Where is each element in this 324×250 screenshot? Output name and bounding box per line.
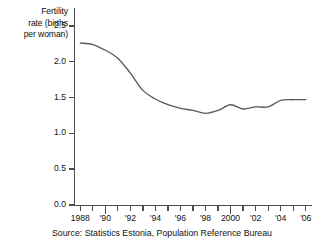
y-tick-label-0.5: 0.5 [12, 164, 66, 173]
x-tick-1992 [130, 206, 131, 211]
x-tick-1997 [192, 206, 193, 211]
fertility-rate-chart: Fertility rate (births per woman) 2.52.0… [0, 0, 324, 250]
x-tick-1991 [117, 206, 118, 211]
x-tick-2002 [255, 206, 256, 211]
y-axis-line [74, 8, 75, 206]
x-tick-label-1992: '92 [125, 213, 136, 223]
y-tick-label-2.0: 2.0 [12, 57, 66, 66]
y-tick-label-1.5: 1.5 [12, 93, 66, 102]
y-tick-0.0 [69, 204, 75, 205]
x-tick-label-2002: '02 [250, 213, 261, 223]
x-tick-2001 [242, 206, 243, 211]
y-tick-2.0 [69, 61, 75, 62]
x-tick-label-1996: '96 [175, 213, 186, 223]
y-tick-label-1.0: 1.0 [12, 128, 66, 137]
y-tick-0.5 [69, 168, 75, 169]
x-tick-label-2004: '04 [275, 213, 286, 223]
y-tick-1.5 [69, 97, 75, 98]
y-tick-label-0.0: 0.0 [12, 200, 66, 209]
x-tick-1995 [167, 206, 168, 211]
y-tick-2.5 [69, 25, 75, 26]
y-tick-1.0 [69, 133, 75, 134]
x-tick-label-1990: '90 [100, 213, 111, 223]
x-tick-2006 [305, 206, 306, 211]
y-axis-tick-labels: 2.52.01.51.00.50.0 [8, 0, 66, 250]
source-note: Source: Statistics Estonia, Population R… [0, 228, 324, 239]
x-tick-1998 [205, 206, 206, 211]
x-tick-2003 [268, 206, 269, 211]
x-tick-label-2000: 2000 [221, 213, 240, 223]
x-tick-label-1998: '98 [200, 213, 211, 223]
x-tick-label-2006: '06 [300, 213, 311, 223]
x-tick-2004 [280, 206, 281, 211]
x-tick-1999 [217, 206, 218, 211]
x-tick-1993 [142, 206, 143, 211]
x-tick-2005 [293, 206, 294, 211]
x-tick-label-1994: '94 [150, 213, 161, 223]
x-tick-label-1988: 1988 [71, 213, 90, 223]
fertility-rate-line [80, 43, 305, 113]
x-tick-1994 [155, 206, 156, 211]
y-tick-label-2.5: 2.5 [12, 21, 66, 30]
x-tick-1989 [92, 206, 93, 211]
x-tick-1996 [180, 206, 181, 211]
x-tick-1988 [80, 206, 81, 211]
